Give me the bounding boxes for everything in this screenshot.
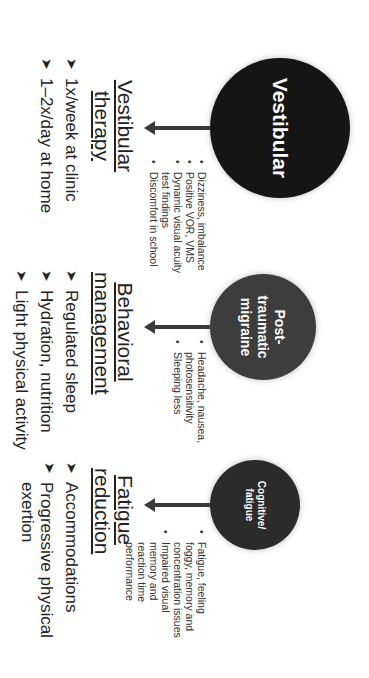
diagram-canvas: Vestibular Dizziness, imbalance Positive… [0,0,369,678]
vestibular-symptom-list: Dizziness, imbalance Positive VOR, VMS D… [148,160,208,280]
symptom-item: Sleeping less [172,340,184,450]
symptom-item: Positive VOR, VMS [184,160,196,280]
arrow-fatigue [154,503,210,507]
post-traumatic-migraine-circle: Post-traumatic migraine [210,274,316,380]
action-item: ➤1x/week at clinic [59,58,84,228]
arrow-bullet-icon: ➤ [59,270,84,282]
behavioral-management-heading: Behavioral management [91,272,137,392]
arrow-bullet-icon: ➤ [59,462,84,474]
arrow-vestibular [154,126,210,130]
arrow-bullet-icon: ➤ [9,270,34,282]
action-item: ➤Progressive physical exertion [18,462,59,652]
arrow-bullet-icon: ➤ [34,58,59,70]
arrow-bullet-icon: ➤ [34,270,59,282]
symptom-item: Dynamic visual acuity test findings [160,160,184,280]
arrow-bullet-icon: ➤ [59,58,84,70]
vestibular-therapy-heading: Vestibular therapy [91,78,137,174]
action-item: ➤Hydration, nutrition [34,270,59,460]
arrow-head-icon [144,320,155,334]
migraine-symptom-list: Headache, nausea, photosensitivity Sleep… [172,340,208,450]
circle-label: Post-traumatic migraine [238,292,289,362]
action-item: ➤1–2x/day at home [34,58,59,228]
action-item: ➤Regulated sleep [59,270,84,460]
arrow-head-icon [144,498,155,512]
action-item: ➤Accommodations [59,462,84,652]
circle-label: Vestibular [268,78,292,178]
symptom-item: Fatigue, feeling foggy, memory and conce… [172,530,208,638]
arrow-head-icon [144,121,155,135]
fatigue-reduction-heading: Fatigue reduction [91,468,137,552]
arrow-migraine [154,325,210,329]
symptom-item: Headache, nausea, photosensitivity [184,340,208,450]
fatigue-action-list: ➤Accommodations ➤Progressive physical ex… [18,462,84,652]
symptom-item: Dizziness, imbalance [196,160,208,280]
circle-label: Cognitive/ fatigue [243,477,267,533]
vestibular-action-list: ➤1x/week at clinic ➤1–2x/day at home [34,58,84,228]
arrow-bullet-icon: ➤ [40,462,59,474]
symptom-item: Discomfort in school [148,160,160,280]
cognitive-fatigue-circle: Cognitive/ fatigue [210,460,300,550]
behavioral-action-list: ➤Regulated sleep ➤Hydration, nutrition ➤… [9,270,84,460]
action-item: ➤Light physical activity [9,270,34,460]
vestibular-circle: Vestibular [210,58,350,198]
